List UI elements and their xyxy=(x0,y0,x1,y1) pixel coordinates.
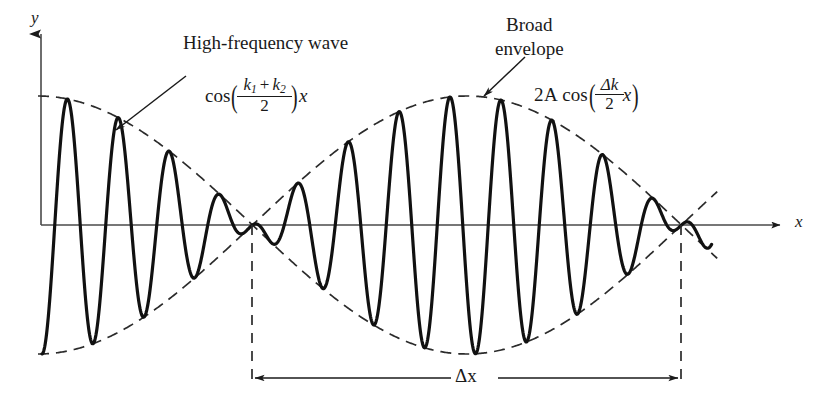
broad-envelope-label-line1: Broad xyxy=(506,14,552,36)
k2-symbol: k xyxy=(272,75,280,94)
amplitude-2a: 2A xyxy=(534,84,558,106)
fraction-delta-k-over-2: Δk 2 xyxy=(598,76,622,114)
cos-operator: cos xyxy=(205,85,230,107)
figure-canvas xyxy=(0,0,825,405)
k2-subscript: 2 xyxy=(280,83,286,96)
cos-operator: cos xyxy=(562,84,587,106)
k1-symbol: k xyxy=(243,75,251,94)
close-paren: ) xyxy=(291,83,298,109)
k1-subscript: 1 xyxy=(251,83,257,96)
delta-x-label: Δx xyxy=(455,365,477,387)
delta-k-symbol: Δk xyxy=(598,76,622,94)
fraction-k-sum-over-2: k1+k2 2 xyxy=(240,76,288,116)
fraction-denominator: 2 xyxy=(237,96,291,116)
broad-envelope-label-line2: envelope xyxy=(495,38,564,60)
plus-sign: + xyxy=(257,75,273,94)
high-frequency-leader-line xyxy=(116,76,186,130)
close-paren: ) xyxy=(632,82,639,108)
x-axis-label: x xyxy=(795,212,803,232)
open-paren: ( xyxy=(231,83,238,109)
wave-beat-figure: y x High-frequency wave cos ( k1+k2 2 ) … xyxy=(0,0,825,405)
broad-envelope-formula: 2A cos ( Δk 2 x ) xyxy=(534,76,640,114)
x-variable: x xyxy=(623,84,631,106)
fraction-denominator: 2 xyxy=(595,94,625,114)
x-variable: x xyxy=(299,85,307,107)
high-frequency-wave-formula: cos ( k1+k2 2 ) x xyxy=(205,76,307,116)
y-axis-label: y xyxy=(31,8,39,28)
broad-envelope-leader-line xyxy=(484,57,525,96)
open-paren: ( xyxy=(589,82,596,108)
high-frequency-wave-label: High-frequency wave xyxy=(183,32,348,54)
